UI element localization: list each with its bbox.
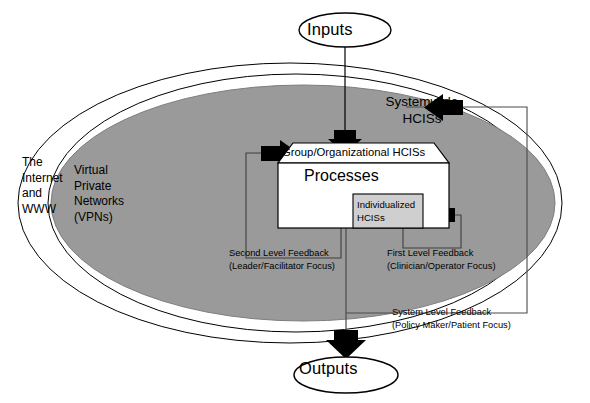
inputs-label: Inputs [307, 20, 353, 39]
individualized-hcis-label: Individualized HCISs [357, 199, 415, 224]
group-organizational-hcis-label: Group/Organizational HCISs [282, 146, 425, 159]
diagram-canvas: Inputs Outputs The Internet and WWW Virt… [0, 0, 590, 403]
processes-label: Processes [304, 167, 379, 186]
systemwide-hcis-label: Systemwide HCISs [372, 93, 472, 127]
vpn-ring-label: Virtual Private Networks (VPNs) [74, 163, 124, 225]
first-level-feedback-label: First Level Feedback (Clinician/Operator… [387, 247, 496, 272]
second-level-feedback-label: Second Level Feedback (Leader/Facilitato… [229, 247, 335, 272]
system-level-feedback-label: System Level Feedback (Policy Maker/Pati… [392, 306, 511, 331]
outputs-label: Outputs [299, 359, 357, 378]
internet-ring-label: The Internet and WWW [22, 155, 63, 217]
